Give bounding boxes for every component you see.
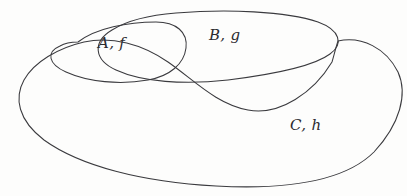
diagram-canvas (0, 0, 407, 196)
set-b-curve (98, 11, 338, 82)
region-label-b: B, g (209, 28, 240, 43)
set-diagram-figure: A, f B, g C, h (0, 0, 407, 196)
region-label-c: C, h (290, 118, 321, 133)
region-label-a: A, f (98, 36, 125, 51)
set-c-curve (19, 40, 402, 187)
set-a-curve (51, 22, 186, 82)
